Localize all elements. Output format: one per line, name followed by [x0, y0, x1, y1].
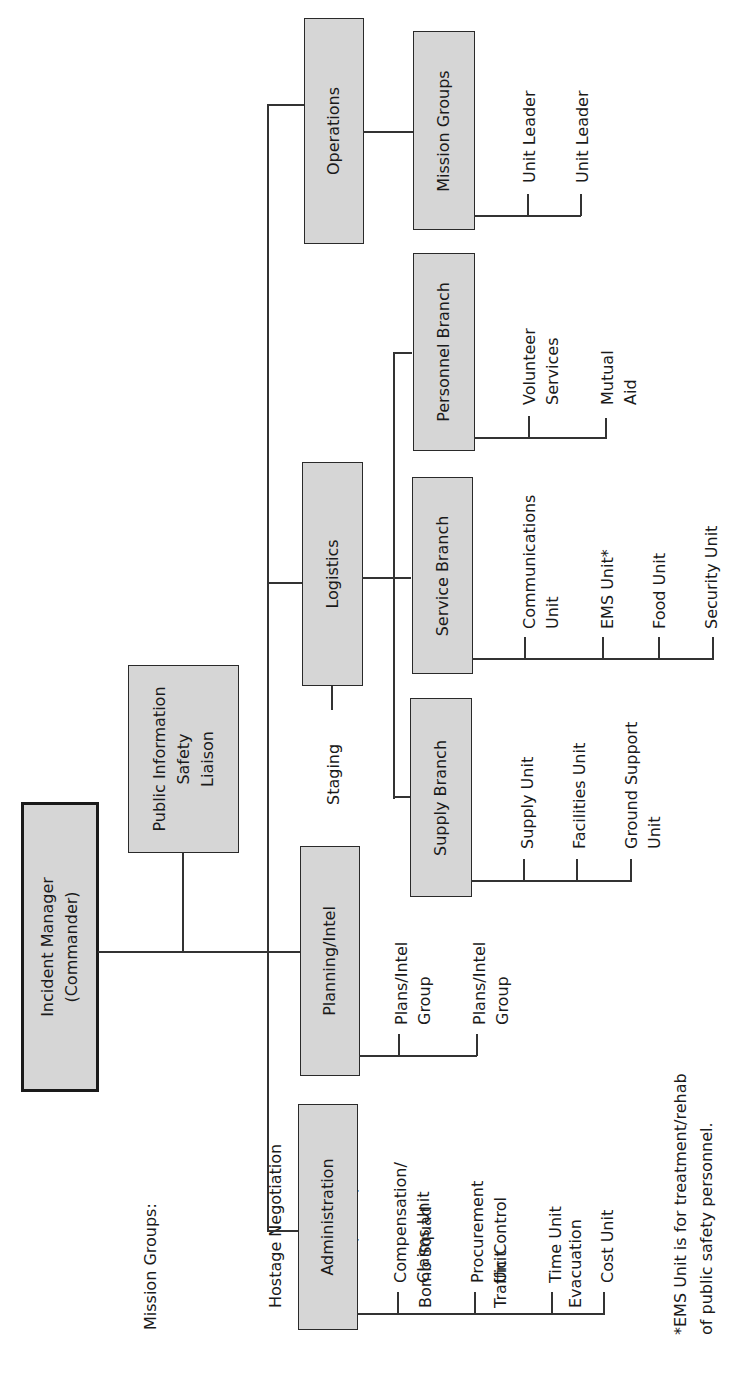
- connector: [712, 637, 714, 659]
- plans-intel-group-2: Plans/Intel Group: [468, 942, 514, 1025]
- operations-box: Operations: [304, 18, 364, 244]
- connector: [267, 582, 303, 584]
- incident-manager-box: Incident Manager (Commander): [21, 802, 99, 1092]
- connector: [182, 852, 184, 952]
- connector: [471, 880, 632, 882]
- mission-groups-label: Mission Groups: [432, 70, 456, 191]
- service-branch-label: Service Branch: [431, 515, 455, 636]
- unit-leader-1: Unit Leader: [518, 90, 541, 183]
- connector: [359, 1055, 477, 1057]
- connector: [397, 1292, 399, 1314]
- food-unit: Food Unit: [648, 553, 671, 629]
- security-unit: Security Unit: [700, 526, 723, 629]
- connector: [580, 194, 582, 216]
- planning-intel-label: Planning/Intel: [318, 906, 342, 1016]
- connector: [398, 1034, 400, 1056]
- staff-box: Public Information Safety Liaison: [128, 665, 239, 853]
- connector: [357, 1313, 605, 1315]
- mission-groups-title: Mission Groups:: [138, 1144, 163, 1330]
- administration-label: Administration: [316, 1158, 340, 1275]
- mission-groups-box: Mission Groups: [413, 31, 475, 230]
- spine: [267, 104, 269, 1231]
- operations-label: Operations: [322, 87, 346, 175]
- connector: [551, 1292, 553, 1314]
- connector: [602, 637, 604, 659]
- connector: [603, 1292, 605, 1314]
- supply-branch-label: Supply Branch: [429, 739, 453, 855]
- staging-label: Staging: [322, 744, 345, 805]
- connector: [474, 1292, 476, 1314]
- connector: [267, 951, 301, 953]
- connector: [658, 637, 660, 659]
- compensation-claims-unit: Compensation/ Claims Unit: [389, 1162, 435, 1283]
- cost-unit: Cost Unit: [596, 1210, 619, 1283]
- connector: [393, 352, 395, 799]
- connector: [476, 1034, 478, 1056]
- connector: [393, 352, 412, 354]
- connector: [523, 859, 525, 881]
- communications-unit: Communications Unit: [518, 495, 564, 629]
- personnel-branch-box: Personnel Branch: [413, 253, 475, 451]
- procurement-unit: Procurement Unit: [466, 1181, 512, 1283]
- mission-groups-note: Mission Groups: Hostage Negotiation S.E.…: [88, 1144, 663, 1330]
- connector: [576, 859, 578, 881]
- plans-intel-group-1: Plans/Intel Group: [390, 942, 436, 1025]
- planning-intel-box: Planning/Intel: [300, 846, 360, 1076]
- mutual-aid: Mutual Aid: [596, 350, 642, 405]
- logistics-box: Logistics: [302, 462, 363, 686]
- time-unit: Time Unit: [544, 1206, 567, 1283]
- connector: [605, 418, 607, 438]
- connector: [527, 194, 529, 216]
- connector: [98, 951, 269, 953]
- connector: [362, 577, 411, 579]
- ems-footnote: *EMS Unit is for treatment/rehab of publ…: [668, 1073, 720, 1335]
- service-branch-box: Service Branch: [412, 477, 473, 674]
- volunteer-services: Volunteer Services: [518, 328, 564, 405]
- administration-box: Administration: [298, 1104, 358, 1330]
- supply-branch-box: Supply Branch: [410, 698, 472, 897]
- staff-label: Public Information Safety Liaison: [148, 686, 220, 831]
- connector: [393, 796, 411, 798]
- connector: [267, 1230, 299, 1232]
- personnel-branch-label: Personnel Branch: [432, 282, 456, 422]
- connector: [331, 686, 333, 710]
- connector: [267, 104, 305, 106]
- connector: [363, 131, 414, 133]
- connector: [524, 637, 526, 659]
- connector: [474, 437, 607, 439]
- ems-unit: EMS Unit*: [596, 549, 619, 629]
- supply-unit: Supply Unit: [516, 757, 539, 849]
- incident-manager-label: Incident Manager (Commander): [36, 877, 84, 1017]
- connector: [472, 658, 714, 660]
- facilities-unit: Facilities Unit: [568, 743, 591, 849]
- logistics-label: Logistics: [321, 539, 345, 608]
- connector: [528, 416, 530, 438]
- unit-leader-2: Unit Leader: [571, 90, 594, 183]
- ground-support-unit: Ground Support Unit: [620, 722, 666, 849]
- connector: [630, 859, 632, 881]
